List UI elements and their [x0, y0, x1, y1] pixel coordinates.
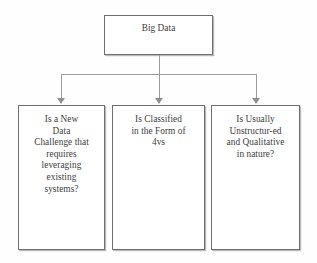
node-label: Big Data: [142, 16, 176, 35]
diagram-canvas: Big Data Is a New Data Challenge that re…: [0, 0, 317, 263]
arrowhead-icon-1: [155, 98, 163, 104]
node-label: Is Classified in the Form of 4vs: [131, 106, 185, 149]
node-unstructured-qualitative[interactable]: Is Usually Unstructur-ed and Qualitative…: [211, 105, 300, 250]
node-new-data-challenge[interactable]: Is a New Data Challenge that requires le…: [18, 105, 105, 250]
connector-drop-2: [256, 74, 257, 99]
connector-drop-0: [61, 74, 62, 99]
node-big-data[interactable]: Big Data: [104, 15, 213, 55]
node-classified-4vs[interactable]: Is Classified in the Form of 4vs: [112, 105, 205, 250]
arrowhead-icon-2: [252, 98, 260, 104]
node-label: Is a New Data Challenge that requires le…: [34, 106, 89, 195]
connector-drop-1: [159, 74, 160, 99]
connector-root-stem: [159, 55, 160, 74]
node-label: Is Usually Unstructur-ed and Qualitative…: [227, 106, 285, 160]
arrowhead-icon-0: [57, 98, 65, 104]
